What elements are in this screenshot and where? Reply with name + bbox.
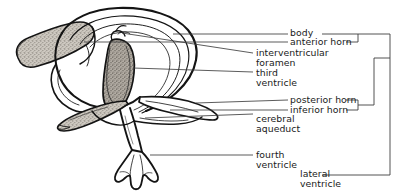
third-ventricle-shape xyxy=(103,31,134,111)
label-ventricle-lateral: ventricle xyxy=(300,179,341,189)
label-inferior-horn: inferior horn xyxy=(290,105,348,115)
label-ventricle-fourth: ventricle xyxy=(256,160,297,170)
ventricular-system-figure: body anterior horn interventricular fora… xyxy=(0,0,401,194)
label-anterior-horn: anterior horn xyxy=(290,37,352,47)
bracket-inner-spine xyxy=(358,58,390,105)
fourth-ventricle-shape xyxy=(115,150,158,189)
label-aqueduct: aqueduct xyxy=(256,124,300,134)
leader-interventricular-foramen xyxy=(122,33,253,53)
leader-posterior-horn xyxy=(196,100,288,103)
cerebral-aqueduct-shape xyxy=(120,108,142,152)
label-ventricle-third: ventricle xyxy=(256,78,297,88)
